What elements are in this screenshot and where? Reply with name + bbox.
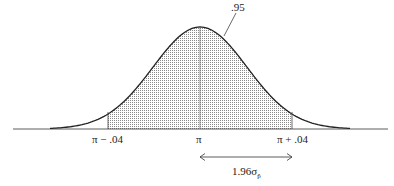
- interval-arrow: [200, 154, 292, 161]
- tick-label-center: π: [196, 133, 202, 145]
- tick-label-right: π + .04: [277, 133, 308, 145]
- interval-label-main: 1.96σ: [232, 165, 257, 177]
- interval-label: 1.96σp̂: [232, 165, 261, 180]
- area-label: .95: [231, 1, 245, 13]
- interval-label-subscript: p̂: [257, 172, 261, 180]
- normal-curve-diagram: [0, 0, 394, 186]
- area-pointer: [224, 13, 236, 36]
- tick-label-left: π − .04: [92, 133, 123, 145]
